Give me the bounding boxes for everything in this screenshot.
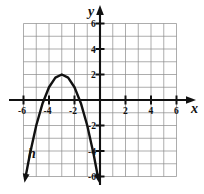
x-tick-label: -6 — [18, 106, 26, 116]
y-tick-label: -6 — [88, 172, 96, 182]
x-tick-label: 4 — [149, 106, 154, 116]
graph-figure: -6-4-2246642-2-4-6 y x h — [0, 0, 204, 194]
y-tick-label: -2 — [88, 121, 96, 131]
x-tick-label: -2 — [69, 106, 77, 116]
y-tick-label: 2 — [91, 70, 96, 80]
x-tick-label: 2 — [123, 106, 128, 116]
curve-left-arrowhead — [23, 173, 30, 182]
y-tick-label: 4 — [91, 45, 96, 55]
x-axis-label: x — [190, 101, 198, 116]
curve-label-h: h — [28, 146, 36, 161]
coordinate-plane-graph: -6-4-2246642-2-4-6 y x h — [0, 0, 204, 194]
x-tick-label: 6 — [174, 106, 179, 116]
y-tick-label: 6 — [91, 19, 96, 29]
x-tick-label: -4 — [44, 106, 52, 116]
axes-group — [9, 5, 196, 185]
y-axis-label: y — [86, 4, 95, 19]
y-axis-arrowhead — [96, 5, 104, 15]
y-tick-label: -4 — [88, 147, 96, 157]
